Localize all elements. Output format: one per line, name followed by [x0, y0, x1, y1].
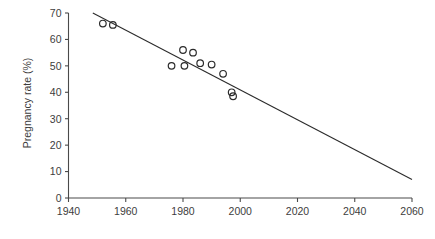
data-point [190, 49, 197, 56]
data-points-group [100, 20, 237, 99]
data-point [220, 70, 227, 77]
plot-svg: 010203040506070 194019601980200020202040… [0, 0, 435, 239]
chart-container: Pregnancy rate (%) 010203040506070 19401… [0, 0, 435, 239]
y-tick-label: 0 [56, 192, 62, 204]
y-tick-label: 50 [50, 60, 62, 72]
x-tick-label: 2020 [286, 205, 310, 217]
data-point [208, 61, 215, 68]
x-tick-label: 1960 [114, 205, 138, 217]
x-axis-ticks [69, 198, 413, 202]
y-tick-label: 40 [50, 86, 62, 98]
trend-line [93, 13, 412, 180]
x-axis-tick-labels: 1940196019802000202020402060 [57, 205, 424, 217]
x-tick-label: 2060 [400, 205, 424, 217]
x-tick-label: 2000 [229, 205, 253, 217]
y-tick-label: 30 [50, 113, 62, 125]
y-tick-label: 60 [50, 33, 62, 45]
y-axis-group: 010203040506070 [50, 7, 69, 204]
y-axis-tick-labels: 010203040506070 [50, 7, 62, 204]
data-point [168, 63, 175, 70]
x-tick-label: 1940 [57, 205, 81, 217]
data-point [100, 20, 107, 27]
data-point [228, 89, 235, 96]
y-tick-label: 20 [50, 139, 62, 151]
y-tick-label: 10 [50, 165, 62, 177]
y-tick-label: 70 [50, 7, 62, 19]
x-axis-group: 1940196019802000202020402060 [57, 198, 424, 217]
x-tick-label: 1980 [171, 205, 195, 217]
trend-line-segment [93, 13, 412, 180]
x-tick-label: 2040 [343, 205, 367, 217]
data-point [180, 47, 187, 54]
data-point [197, 60, 204, 67]
data-point [230, 93, 237, 100]
data-point [181, 63, 188, 70]
